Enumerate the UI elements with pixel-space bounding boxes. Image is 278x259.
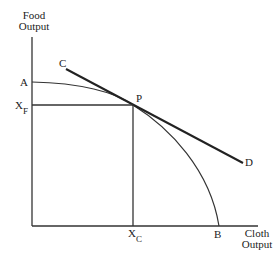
label-c: C bbox=[59, 57, 66, 69]
ppf-curve bbox=[32, 82, 219, 226]
x-axis-label-line2: Output bbox=[242, 238, 273, 250]
label-xf: X bbox=[15, 99, 23, 111]
label-xf-subscript: F bbox=[23, 106, 28, 116]
label-p: P bbox=[136, 92, 142, 104]
label-d: D bbox=[245, 156, 253, 168]
ppf-diagram: Food Output Cloth Output A C P D B X F X… bbox=[0, 0, 278, 259]
y-axis-label-line2: Output bbox=[19, 20, 50, 32]
label-xc-subscript: C bbox=[136, 234, 142, 244]
label-xc: X bbox=[128, 227, 136, 239]
price-line-cd bbox=[66, 69, 243, 163]
label-b: B bbox=[214, 228, 221, 240]
label-a: A bbox=[20, 76, 28, 88]
